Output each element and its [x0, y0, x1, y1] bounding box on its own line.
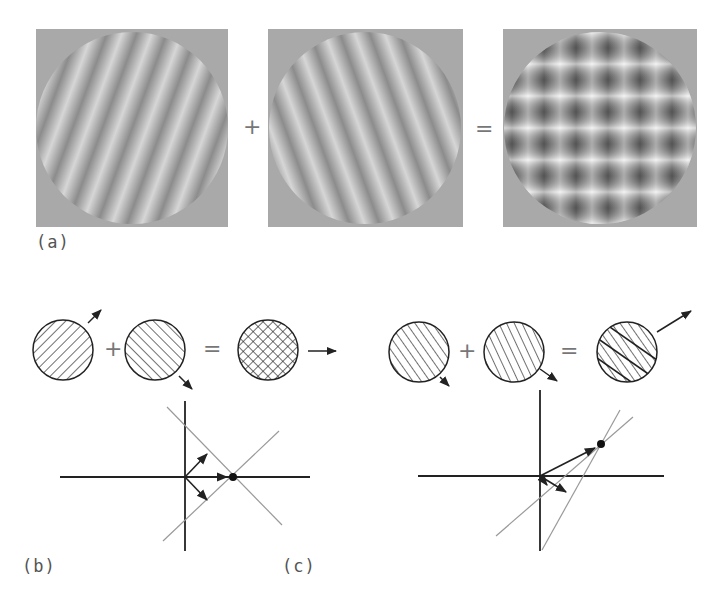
panel-b — [33, 310, 336, 551]
plaid-circle-c — [597, 311, 691, 400]
plus-sign-b: + — [104, 338, 122, 360]
motion-arrow-icon — [440, 377, 449, 386]
component-vector-1 — [185, 454, 207, 477]
intersection-dot — [597, 440, 605, 448]
figure-canvas — [0, 0, 722, 591]
plaid-circle-b — [238, 320, 336, 380]
panel-label-c: (c) — [282, 556, 316, 576]
equals-sign-c: = — [560, 340, 578, 362]
grating-circle-c1 — [389, 322, 449, 386]
grating-1-image — [36, 29, 228, 227]
equals-sign-a: = — [475, 118, 493, 140]
motion-arrow-icon — [540, 369, 557, 381]
panel-a — [36, 29, 697, 227]
grating-circle-c2 — [484, 322, 557, 382]
figure-caption-truncated: (truncated caption — only top of glyphs … — [40, 584, 700, 591]
plus-sign-a: + — [243, 116, 261, 138]
constraint-line-2 — [542, 410, 620, 550]
component-vector-2 — [185, 477, 207, 500]
motion-arrow-icon — [88, 310, 101, 323]
motion-arrow-icon — [179, 376, 192, 389]
intersection-dot — [229, 473, 237, 481]
motion-arrow-icon — [657, 311, 691, 332]
panel-c — [389, 311, 691, 551]
velocity-space-c — [418, 390, 664, 551]
pattern-vector — [540, 448, 595, 476]
plaid-image — [503, 29, 697, 227]
plus-sign-c: + — [458, 340, 476, 362]
panel-label-b: (b) — [22, 556, 56, 576]
grating-2-image — [268, 29, 463, 227]
grating-circle-b1 — [33, 310, 101, 380]
velocity-space-b — [60, 401, 310, 551]
equals-sign-b: = — [203, 338, 221, 360]
constraint-line-2 — [163, 431, 279, 541]
panel-label-a: (a) — [36, 232, 70, 252]
grating-circle-b2 — [125, 320, 192, 389]
